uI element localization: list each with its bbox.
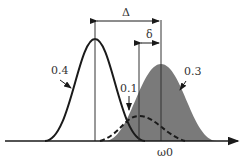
dashed-curve-label: 0.1	[120, 82, 138, 95]
left-curve-label: 0.4	[51, 64, 69, 77]
delta-small-label: δ	[146, 28, 153, 41]
gray-curve-label: 0.3	[184, 65, 202, 78]
delta-big-label: Δ	[122, 6, 130, 19]
axis-label: ω0	[157, 146, 173, 159]
